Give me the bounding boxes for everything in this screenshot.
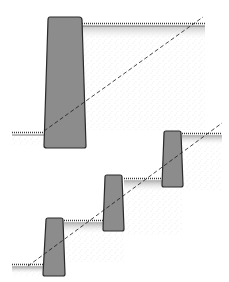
lower-soil-left bbox=[12, 135, 44, 145]
upper-soil-mass bbox=[82, 25, 205, 130]
retaining-wall-diagram bbox=[0, 0, 229, 282]
tall-wall bbox=[44, 17, 86, 148]
terrace-wall-3 bbox=[162, 131, 183, 187]
terrace-soil-shade-1 bbox=[64, 224, 104, 234]
terrace-soil-shade-base bbox=[12, 268, 44, 274]
terrace-wall-1 bbox=[43, 218, 65, 276]
upper-soil-shade bbox=[82, 26, 205, 40]
single-wall-panel bbox=[12, 17, 205, 148]
